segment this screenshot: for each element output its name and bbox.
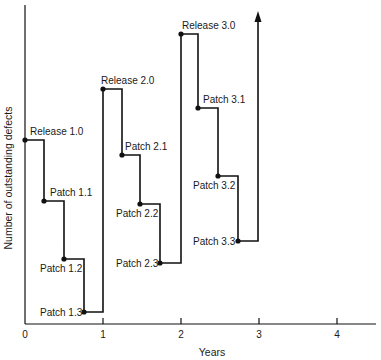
point-labels: Release 1.0 Patch 1.1 Patch 1.2 Patch 1.… — [30, 20, 246, 318]
x-tick-labels: 0 1 2 3 4 — [22, 329, 340, 340]
point-patch-1-1 — [41, 198, 46, 203]
point-release-3-0 — [178, 31, 183, 36]
x-tick-label-2: 2 — [178, 329, 184, 340]
label-patch-1-1: Patch 1.1 — [50, 187, 93, 198]
point-patch-1-2 — [61, 256, 66, 261]
label-release-1-0: Release 1.0 — [30, 126, 84, 137]
label-release-3-0: Release 3.0 — [182, 20, 236, 31]
defects-step-chart: 0 1 2 3 4 Years Number of outstanding de… — [0, 0, 381, 360]
point-release-2-0 — [100, 86, 105, 91]
x-tick-label-0: 0 — [22, 329, 28, 340]
label-patch-3-2: Patch 3.2 — [193, 180, 236, 191]
x-tick-label-4: 4 — [334, 329, 340, 340]
x-axis-title: Years — [199, 346, 225, 358]
y-axis-title: Number of outstanding defects — [2, 106, 14, 249]
label-patch-3-1: Patch 3.1 — [203, 94, 246, 105]
point-patch-3-2 — [215, 173, 220, 178]
point-patch-3-3 — [235, 238, 240, 243]
point-patch-2-1 — [119, 152, 124, 157]
label-patch-2-1: Patch 2.1 — [125, 141, 168, 152]
label-patch-1-3: Patch 1.3 — [40, 307, 83, 318]
arrow-up-icon — [255, 11, 262, 22]
label-patch-1-2: Patch 1.2 — [40, 263, 83, 274]
point-release-1-0 — [22, 137, 27, 142]
label-patch-2-3: Patch 2.3 — [116, 258, 159, 269]
x-tick-label-1: 1 — [100, 329, 106, 340]
label-release-2-0: Release 2.0 — [101, 75, 155, 86]
label-patch-2-2: Patch 2.2 — [116, 208, 159, 219]
axes — [25, 5, 376, 324]
point-patch-3-1 — [195, 105, 200, 110]
point-patch-2-2 — [137, 201, 142, 206]
x-tick-label-3: 3 — [256, 329, 262, 340]
label-patch-3-3: Patch 3.3 — [193, 236, 236, 247]
